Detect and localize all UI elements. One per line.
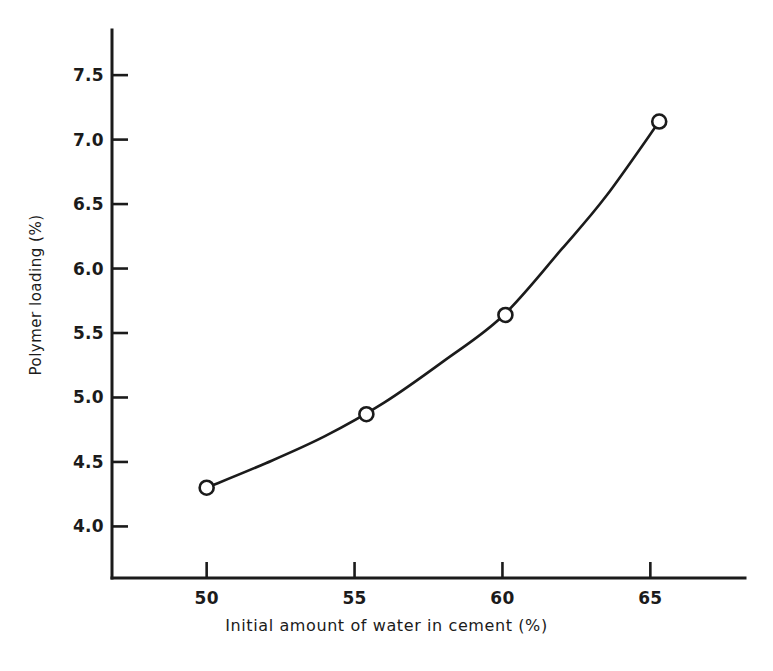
- figure-canvas: 4.04.55.05.56.06.57.07.5 50556065 Polyme…: [0, 0, 773, 671]
- data-point-marker: [652, 115, 666, 129]
- x-axis-ticks: [207, 562, 651, 578]
- x-tick-label: 65: [638, 588, 662, 608]
- x-tick-label: 60: [490, 588, 514, 608]
- y-axis-label: Polymer loading (%): [26, 215, 44, 376]
- data-point-marker: [498, 308, 512, 322]
- data-point-markers: [200, 115, 667, 495]
- x-tick-label: 50: [195, 588, 219, 608]
- chart-plot-area: [0, 0, 773, 671]
- data-point-marker: [359, 407, 373, 421]
- fitted-curve: [207, 122, 660, 488]
- data-point-marker: [200, 481, 214, 495]
- x-axis-label: Initial amount of water in cement (%): [0, 616, 773, 635]
- y-axis-label-container: Polymer loading (%): [18, 0, 52, 590]
- y-axis-ticks: [112, 75, 128, 526]
- x-tick-label: 55: [342, 588, 366, 608]
